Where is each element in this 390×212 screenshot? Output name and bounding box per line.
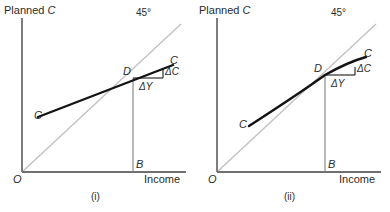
panel-i-point-d-label: D [123, 66, 131, 77]
panel-i-curve-label-left: C [34, 110, 42, 121]
panel-i-point-b-label: B [136, 159, 143, 170]
panel-i-caption: (i) [91, 192, 100, 202]
panel-i-x-axis-label: Income [144, 174, 180, 185]
panel-ii-curve-label-left: C [239, 119, 247, 130]
panel-i-delta-c-label: ΔC [165, 67, 179, 77]
panel-ii-origin-label: O [208, 174, 217, 185]
panel-i-origin-label: O [13, 174, 22, 185]
panel-i-y-axis-label-symbol: C [47, 4, 55, 16]
panel-ii-curve-label-right: C [364, 48, 372, 59]
panel-ii-point-d-label: D [314, 63, 322, 74]
panel-ii-y-axis-label-symbol: C [242, 4, 250, 16]
panel-ii-y-axis-label: Planned C [199, 5, 250, 16]
panel-i-consumption-line [38, 65, 173, 117]
panel-ii-delta-c-label: ΔC [357, 64, 371, 74]
panel-i-graphics [22, 18, 186, 172]
panel-ii-consumption-curve [249, 57, 366, 126]
panel-ii-x-axis-label: Income [339, 174, 375, 185]
panel-i-y-axis-label-text: Planned [4, 4, 47, 16]
panel-ii-45-degree-label: 45° [331, 8, 346, 18]
panel-ii-45-degree-line [217, 24, 376, 172]
figure-canvas [0, 0, 390, 212]
panel-i-y-axis-label: Planned C [4, 5, 55, 16]
panel-ii-delta-y-label: ΔY [331, 79, 344, 89]
panel-i-delta-y-label: ΔY [139, 82, 152, 92]
panel-i-45-degree-line [22, 24, 181, 172]
panel-i-curve-label-right: C [170, 55, 178, 66]
panel-ii-y-axis-label-text: Planned [199, 4, 242, 16]
panel-i-45-degree-label: 45° [136, 8, 151, 18]
panel-ii-graphics [217, 18, 381, 172]
figure-consumption-functions: Planned C 45° C C D ΔY ΔC B O Income (i)… [0, 0, 390, 212]
panel-ii-point-b-label: B [328, 159, 335, 170]
panel-ii-caption: (ii) [284, 192, 295, 202]
